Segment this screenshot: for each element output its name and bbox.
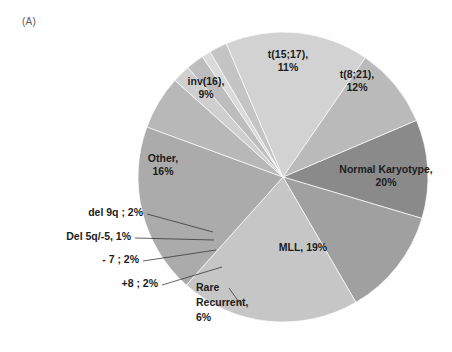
- pie-chart: t(15;17),11%t(8;21),12%Normal Karyotype,…: [0, 0, 452, 352]
- figure-root: (A) t(15;17),11%t(8;21),12%Normal Karyot…: [0, 0, 452, 352]
- callout-label-minus7: - 7 ; 2%: [102, 253, 139, 265]
- callout-label-del9q: del 9q ; 2%: [88, 206, 144, 218]
- pie-chart-svg: t(15;17),11%t(8;21),12%Normal Karyotype,…: [0, 0, 452, 352]
- callout-label-plus8: +8 ; 2%: [122, 277, 159, 289]
- callout-label-del5q: Del 5q/-5, 1%: [66, 230, 131, 242]
- slice-label-mll: MLL, 19%: [279, 241, 328, 253]
